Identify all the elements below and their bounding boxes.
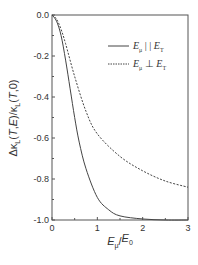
- x-tick-label: 1: [95, 223, 100, 233]
- legend-label: Eμ | | ET: [132, 40, 164, 53]
- y-tick-label: -1.0: [33, 215, 49, 225]
- legend-label: Eμ ⊥ ET: [132, 58, 166, 71]
- y-tick-label: -0.6: [33, 133, 49, 143]
- chart: 01230.0-0.2-0.4-0.6-0.8-1.0Eμ | | ETEμ ⊥…: [0, 0, 198, 265]
- y-tick-label: -0.4: [33, 92, 49, 102]
- y-tick-label: -0.8: [33, 174, 49, 184]
- x-tick-label: 2: [140, 223, 145, 233]
- y-tick-label: -0.2: [33, 51, 49, 61]
- y-axis-label: ΔκL(T,E)/κL(T,0): [7, 80, 21, 157]
- x-axis-label: Eμ/E0: [107, 232, 133, 250]
- x-tick-label: 3: [185, 223, 190, 233]
- y-tick-label: 0.0: [36, 10, 49, 20]
- x-tick-label: 0: [49, 223, 54, 233]
